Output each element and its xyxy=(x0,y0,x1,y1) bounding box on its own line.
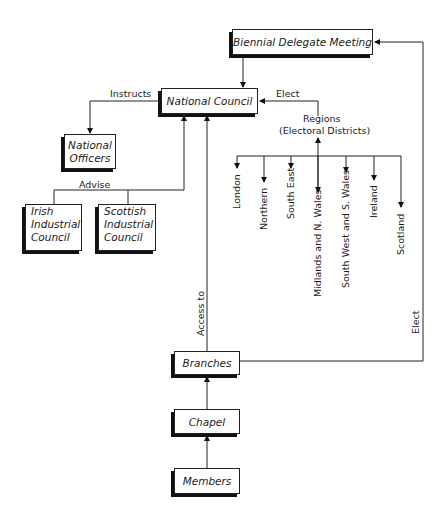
node-label: National Council xyxy=(167,95,253,107)
node-label: Branches xyxy=(183,357,232,369)
node-label-line: National xyxy=(68,139,112,152)
node-label-line: Industrial xyxy=(31,218,80,231)
region-label-ireland: Ireland xyxy=(368,185,379,218)
node-chapel: Chapel xyxy=(174,409,240,434)
region-label-south-west: South West and S. Wales xyxy=(340,170,351,288)
label-advise: Advise xyxy=(79,179,110,190)
node-branches: Branches xyxy=(174,351,240,375)
node-label-line: Council xyxy=(104,231,143,244)
label-regions: Regions xyxy=(303,113,340,124)
label-elect-regions: Elect xyxy=(276,88,299,99)
node-label: Chapel xyxy=(189,416,225,428)
node-label-line: Officers xyxy=(70,152,111,165)
node-national-officers: National Officers xyxy=(64,134,116,169)
node-label: Members xyxy=(183,475,232,487)
label-access-to: Access to xyxy=(195,291,206,336)
node-label: Biennial Delegate Meeting xyxy=(233,36,372,48)
region-label-london: London xyxy=(231,174,242,209)
node-label-line: Irish xyxy=(31,205,53,218)
region-label-scotland: Scotland xyxy=(395,214,406,255)
node-members: Members xyxy=(174,468,240,494)
region-label-northern: Northern xyxy=(258,188,269,230)
label-elect-branches: Elect xyxy=(410,311,421,334)
label-instructs: Instructs xyxy=(110,88,151,99)
node-label-line: Scottish xyxy=(104,205,146,218)
org-chart-connectors xyxy=(0,0,446,519)
region-label-south-east: South East xyxy=(285,168,296,219)
label-electoral-districts: (Electoral Districts) xyxy=(279,125,370,136)
region-label-midlands: Midlands and N. Wales xyxy=(312,190,323,297)
node-scottish-industrial-council: Scottish Industrial Council xyxy=(98,204,156,251)
node-national-council: National Council xyxy=(161,88,258,114)
node-irish-industrial-council: Irish Industrial Council xyxy=(25,204,82,251)
node-label-line: Council xyxy=(31,231,70,244)
node-label-line: Industrial xyxy=(104,218,153,231)
node-biennial-delegate-meeting: Biennial Delegate Meeting xyxy=(232,29,373,55)
connector-instructs xyxy=(90,101,161,133)
